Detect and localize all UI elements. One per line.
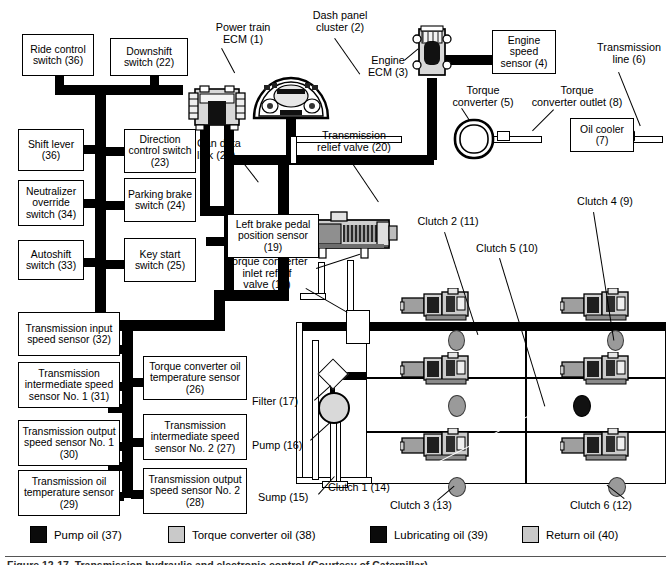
harness-stub-autoshift (83, 258, 99, 267)
legend-label-torque-converter-oil: Torque converter oil (38) (192, 529, 315, 541)
converter-outlet-fitting (497, 131, 510, 141)
box-engine-speed-sensor[interactable]: Engine speed sensor (4) (492, 30, 556, 74)
box-torque-converter-oil-temperature-sensor[interactable]: Torque converter oil temperature sensor … (143, 356, 247, 400)
converter-supply-riser (290, 136, 297, 164)
callout-torque-converter: Torque converter (5) (437, 85, 529, 108)
legend-swatch-pump-oil (30, 526, 47, 543)
box-label: Engine speed sensor (4) (495, 35, 553, 68)
leader-can-data-link (243, 163, 259, 183)
tc-inlet-relief-valve-symbol (346, 310, 370, 344)
box-transmission-intermediate-speed-sensor-2[interactable]: Transmission intermediate speed sensor N… (143, 414, 247, 460)
legend-item-lubricating-oil: Lubricating oil (39) (370, 526, 488, 543)
callout-filter: Filter (17) (252, 396, 314, 408)
callout-clutch-3: Clutch 3 (13) (390, 500, 482, 512)
caption-rule (5, 556, 666, 557)
callout-transmission-line: Transmission line (6) (586, 42, 671, 65)
legend-item-return-oil: Return oil (40) (522, 526, 618, 543)
box-transmission-input-speed-sensor[interactable]: Transmission input speed sensor (32) (18, 312, 120, 356)
harness-stub-shift-lever (83, 145, 99, 154)
box-label: Shift lever (36) (21, 139, 81, 161)
callout-pump: Pump (16) (252, 440, 314, 452)
clutch-5-marker (448, 395, 466, 417)
box-label: Ride control switch (36) (25, 44, 91, 66)
box-label: Torque converter oil temperature sensor … (146, 361, 244, 394)
box-label: Downshift switch (22) (113, 46, 185, 68)
callout-engine-ecm: Engine ECM (3) (357, 55, 419, 78)
ecm-leg-left (200, 120, 210, 215)
callout-sump: Sump (15) (258, 492, 320, 504)
clutch-valve-4 (560, 288, 634, 322)
box-direction-control-switch[interactable]: Direction control switch (23) (124, 129, 196, 173)
leader-power-train-ecm (221, 48, 235, 73)
legend: Pump oil (37) Torque converter oil (38) … (0, 524, 671, 550)
legend-label-lubricating-oil: Lubricating oil (39) (394, 529, 488, 541)
pump-symbol (318, 392, 350, 424)
box-label: Transmission input speed sensor (32) (21, 323, 117, 345)
sensor-trunk (122, 330, 133, 498)
clutch-4-marker (607, 330, 624, 351)
harness-top-bar (95, 85, 183, 95)
clutch-valve-3 (560, 428, 634, 462)
box-label: Transmission output speed sensor No. 1 (… (21, 426, 117, 459)
box-transmission-oil-temperature-sensor[interactable]: Transmission oil temperature sensor (29) (18, 470, 120, 516)
callout-clutch-1: Clutch 1 (14) (328, 482, 418, 494)
dash-panel-cluster-graphic (250, 70, 332, 122)
callout-can-data-link: Can data link (21) (197, 138, 269, 161)
transmission-schematic-figure: Ride control switch (36) Downshift switc… (0, 0, 671, 565)
transmission-relief-valve-graphic (305, 206, 401, 262)
clutch-valve-6a (560, 352, 634, 386)
callout-clutch-4: Clutch 4 (9) (562, 196, 648, 208)
clutch-valve-5 (400, 352, 474, 386)
box-neutralizer-override-switch[interactable]: Neutralizer override switch (34) (18, 180, 84, 226)
callout-power-train-ecm: Power train ECM (1) (197, 22, 289, 45)
leader-transmission-relief-valve (351, 162, 379, 202)
box-label: Left brake pedal position sensor (19) (230, 219, 316, 252)
callout-clutch-5: Clutch 5 (10) (463, 243, 551, 255)
box-label: Autoshift switch (33) (21, 249, 81, 271)
clutch-valve-1 (400, 428, 474, 462)
box-label: Key start switch (25) (127, 249, 193, 271)
callout-dash-panel-cluster: Dash panel cluster (2) (296, 10, 384, 33)
legend-label-return-oil: Return oil (40) (546, 529, 618, 541)
box-key-start-switch[interactable]: Key start switch (25) (124, 238, 196, 282)
leader-tc-inlet-relief-valve (306, 288, 348, 313)
box-label: Oil cooler (7) (573, 124, 631, 146)
box-label: Transmission oil temperature sensor (29) (21, 476, 117, 509)
legend-swatch-torque-converter-oil (168, 526, 185, 543)
box-transmission-output-speed-sensor-2[interactable]: Transmission output speed sensor No. 2 (… (143, 468, 247, 514)
legend-swatch-return-oil (522, 526, 539, 543)
callout-transmission-relief-valve: Transmission relief valve (20) (306, 130, 402, 153)
callout-tc-inlet-relief-valve: Torque converter inlet reflief valve (18… (212, 256, 322, 291)
figure-caption: Figure 12-17. Transmission hydraulic and… (7, 559, 667, 565)
legend-item-torque-converter-oil: Torque converter oil (38) (168, 526, 315, 543)
box-transmission-output-speed-sensor-1[interactable]: Transmission output speed sensor No. 1 (… (18, 420, 120, 466)
box-oil-cooler[interactable]: Oil cooler (7) (570, 118, 634, 152)
legend-swatch-lubricating-oil (370, 526, 387, 543)
engine-ecm-leg (427, 78, 437, 160)
box-ride-control-switch[interactable]: Ride control switch (36) (22, 34, 94, 76)
box-label: Transmission intermediate speed sensor N… (21, 368, 117, 401)
harness-ride-drop (55, 75, 64, 90)
box-downshift-switch[interactable]: Downshift switch (22) (110, 38, 188, 76)
harness-stub-key-start (103, 260, 125, 269)
legend-label-pump-oil: Pump oil (37) (54, 529, 122, 541)
leader-torque-converter-outlet (532, 109, 554, 131)
harness-stub-neutralizer (83, 199, 99, 208)
box-transmission-intermediate-speed-sensor-1[interactable]: Transmission intermediate speed sensor N… (18, 362, 120, 408)
legend-item-pump-oil: Pump oil (37) (30, 526, 122, 543)
harness-stub-direction (103, 147, 125, 156)
harness-downshift-drop (150, 75, 159, 90)
callout-clutch-6: Clutch 6 (12) (570, 500, 662, 512)
clutch-1-marker (573, 395, 591, 417)
box-label: Neutralizer override switch (34) (21, 186, 81, 219)
manifold-3 (366, 378, 526, 432)
callout-torque-converter-outlet: Torque converter outlet (8) (517, 85, 637, 108)
harness-stub-parking (103, 201, 125, 210)
box-label: Parking brake switch (24) (127, 189, 193, 211)
box-autoshift-switch[interactable]: Autoshift switch (33) (18, 240, 84, 280)
torque-converter-symbol (452, 116, 496, 162)
box-parking-brake-switch[interactable]: Parking brake switch (24) (124, 178, 196, 222)
box-shift-lever[interactable]: Shift lever (36) (18, 129, 84, 171)
box-label: Transmission intermediate speed sensor N… (146, 420, 244, 453)
box-left-brake-pedal-position-sensor[interactable]: Left brake pedal position sensor (19) (227, 214, 319, 258)
